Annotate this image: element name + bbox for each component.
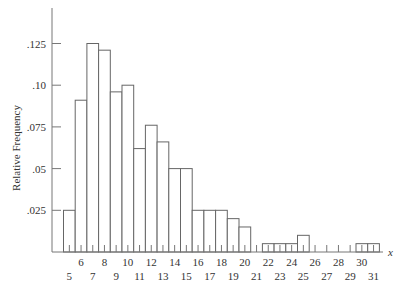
- x-tick-label: 29: [345, 270, 357, 282]
- bars: [64, 44, 380, 253]
- x-tick-label: 5: [67, 270, 73, 282]
- x-tick-label: 12: [146, 256, 157, 268]
- y-tick-label: .05: [32, 163, 46, 175]
- x-tick-label: 10: [122, 256, 134, 268]
- histogram-chart: .025.05.075.10.125 567891011121314151617…: [0, 0, 397, 284]
- x-tick-label: 18: [216, 256, 228, 268]
- bar-14: [169, 169, 181, 252]
- x-tick-label: 17: [204, 270, 216, 282]
- bar-10: [122, 85, 134, 252]
- bar-7: [87, 44, 99, 253]
- x-tick-label: 9: [113, 270, 119, 282]
- x-tick-label: 8: [102, 256, 108, 268]
- x-axis-label: x: [387, 246, 393, 258]
- bar-6: [75, 100, 87, 252]
- x-tick-label: 11: [134, 270, 145, 282]
- x-tick-label: 30: [356, 256, 368, 268]
- bar-12: [145, 125, 157, 252]
- y-axis-label: Relative Frequency: [10, 105, 22, 191]
- x-tick-label: 27: [321, 270, 333, 282]
- x-tick-label: 13: [157, 270, 169, 282]
- x-tick-label: 26: [310, 256, 322, 268]
- x-tick-label: 6: [78, 256, 84, 268]
- bar-15: [181, 169, 193, 252]
- x-tick-label: 24: [286, 256, 298, 268]
- x-tick-label: 25: [298, 270, 310, 282]
- x-tick-label: 7: [90, 270, 96, 282]
- x-tick-label: 15: [181, 270, 193, 282]
- x-tick-label: 16: [193, 256, 205, 268]
- x-tick-label: 14: [169, 256, 181, 268]
- x-tick-label: 28: [333, 256, 345, 268]
- y-tick-label: .025: [27, 204, 47, 216]
- x-tick-label: 21: [251, 270, 262, 282]
- y-tick-label: .125: [27, 38, 47, 50]
- x-tick-label: 19: [228, 270, 240, 282]
- y-ticks: .025.05.075.10.125: [27, 38, 61, 217]
- bar-13: [157, 142, 169, 252]
- x-tick-label: 22: [263, 256, 274, 268]
- x-tick-label: 20: [239, 256, 251, 268]
- x-tick-label: 23: [274, 270, 286, 282]
- y-tick-label: .10: [32, 79, 46, 91]
- y-tick-label: .075: [27, 121, 47, 133]
- bar-11: [134, 149, 146, 252]
- x-tick-label: 31: [368, 270, 379, 282]
- bar-8: [99, 50, 111, 252]
- bar-9: [110, 92, 122, 252]
